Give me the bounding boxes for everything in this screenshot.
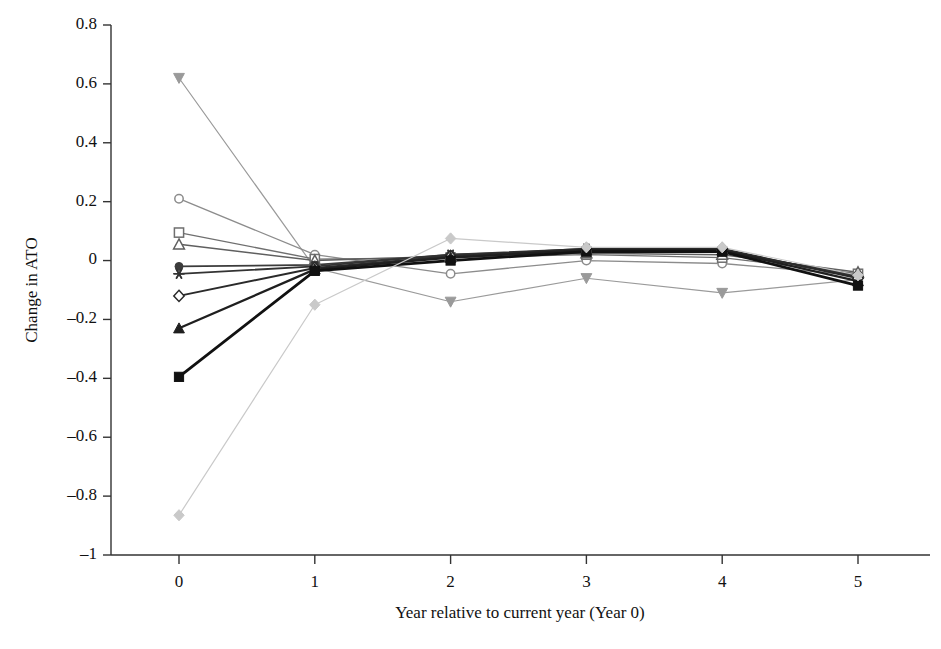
y-tick-label: –0.8 <box>66 485 97 504</box>
y-tick-label: 0.6 <box>76 73 97 92</box>
data-point-square-filled <box>446 256 455 265</box>
data-point-triangle-down-filled <box>717 288 728 298</box>
data-point-diamond-filled <box>310 299 320 310</box>
data-point-triangle-down-filled <box>445 297 456 307</box>
y-axis-ticks: 0.80.60.40.20–0.2–0.4–0.6–0.8–1 <box>66 14 111 563</box>
data-point-triangle-down-filled <box>174 73 185 83</box>
x-axis-title: Year relative to current year (Year 0) <box>395 603 645 622</box>
series-markers-0 <box>174 73 864 307</box>
series-line <box>179 199 858 276</box>
series-line <box>179 238 858 515</box>
y-tick-label: –1 <box>79 544 97 563</box>
y-axis-title: Change in ATO <box>22 237 41 342</box>
x-tick-label: 1 <box>311 572 320 591</box>
x-tick-label: 3 <box>582 572 591 591</box>
x-tick-label: 5 <box>854 572 863 591</box>
y-tick-label: 0.4 <box>76 132 98 151</box>
line-chart: 0.80.60.40.20–0.2–0.4–0.6–0.8–1 012345 C… <box>0 0 941 649</box>
x-tick-label: 4 <box>718 572 727 591</box>
data-point-triangle-up-open <box>174 239 185 249</box>
data-point-diamond-filled <box>174 510 184 521</box>
y-tick-label: 0 <box>89 249 98 268</box>
series-9 <box>179 238 858 515</box>
chart-root: 0.80.60.40.20–0.2–0.4–0.6–0.8–1 012345 C… <box>0 0 941 649</box>
y-tick-label: 0.2 <box>76 191 97 210</box>
data-point-square-filled <box>310 266 319 275</box>
data-point-diamond-filled <box>445 233 455 244</box>
x-axis-ticks: 012345 <box>175 555 863 591</box>
data-point-circle-open <box>446 270 454 278</box>
y-tick-label: –0.2 <box>66 308 97 327</box>
x-tick-label: 0 <box>175 572 184 591</box>
data-point-circle-open <box>175 195 183 203</box>
y-tick-label: –0.4 <box>66 367 97 386</box>
x-tick-label: 2 <box>446 572 455 591</box>
data-point-diamond-open <box>174 290 184 301</box>
series-1 <box>179 199 858 276</box>
axis-labels: Change in ATO Year relative to current y… <box>22 237 645 622</box>
series-layer <box>174 73 864 520</box>
data-point-square-filled <box>174 372 183 381</box>
y-tick-label: 0.8 <box>76 14 97 33</box>
data-point-square-filled <box>853 281 862 290</box>
y-tick-label: –0.6 <box>66 426 97 445</box>
data-point-square-open <box>174 228 183 237</box>
